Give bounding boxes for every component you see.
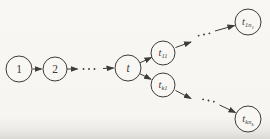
arrow-dots-mid-to-t [103,68,114,69]
arrow-tk1-to-dots-lower [176,91,192,99]
arrow-dots-lower-to-tknk [220,105,236,113]
figure-canvas: 12tt11tk1t1n1tknk [0,0,270,139]
ellipsis-mid [83,68,96,70]
arrow-t11-to-dots-upper [176,42,192,48]
arrow-t-to-tk1 [140,74,151,80]
ellipsis-lower [202,98,215,103]
ellipsis-upper [197,32,210,37]
state-diagram-svg: 12tt11tk1t1n1tknk [0,0,270,139]
arrow-t-to-t11 [140,58,152,63]
node-1-label: 1 [16,63,22,75]
arrow-dots-upper-to-t1n1 [215,26,235,32]
node-2-label: 2 [52,63,58,75]
